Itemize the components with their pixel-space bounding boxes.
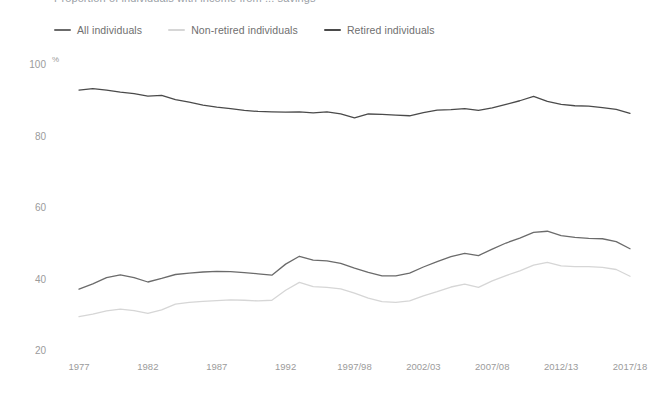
chart-plot-area xyxy=(0,0,668,401)
series-line-retired-individuals xyxy=(79,89,630,118)
series-line-non-retired-individuals xyxy=(79,262,630,316)
chart-container: Proportion of individuals with income fr… xyxy=(0,0,668,401)
series-line-all-individuals xyxy=(79,231,630,289)
